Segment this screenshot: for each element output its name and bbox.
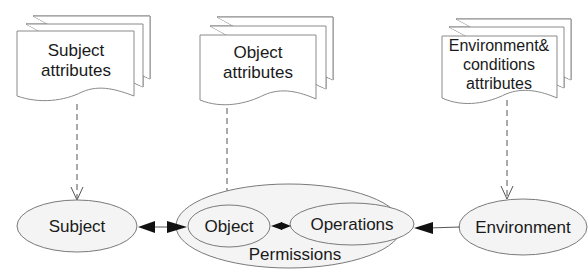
object-attributes-document: Object attributes (200, 17, 333, 105)
environment-node: Environment (459, 199, 587, 255)
doc-label-line: Environment& (449, 37, 550, 54)
doc-label-line: attributes (223, 63, 293, 82)
doc-label-line: attributes (41, 61, 111, 80)
object-label: Object (204, 217, 253, 236)
abac-diagram: Subject attributes Object attributes Env… (0, 0, 588, 278)
subject-attributes-connector (71, 104, 83, 200)
environment-permissions-connector (414, 222, 460, 234)
subject-label: Subject (49, 217, 106, 236)
doc-label-line: attributes (466, 75, 532, 92)
doc-label-line: Subject (48, 41, 105, 60)
environment-label: Environment (475, 218, 571, 237)
filled-arrowhead-left-icon (138, 221, 155, 233)
filled-arrowhead-left-icon (414, 222, 433, 234)
doc-label-line: conditions (463, 56, 535, 73)
doc-label-line: Object (233, 43, 282, 62)
environment-attributes-document: Environment& conditions attributes (442, 19, 571, 104)
permissions-label: Permissions (249, 245, 342, 264)
subject-attributes-document: Subject attributes (17, 16, 150, 101)
object-node: Object (188, 205, 270, 247)
environment-attributes-connector (501, 100, 513, 199)
operations-node: Operations (290, 203, 414, 245)
subject-node: Subject (17, 200, 137, 252)
operations-label: Operations (310, 215, 393, 234)
